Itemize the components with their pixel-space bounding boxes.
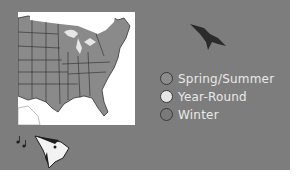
legend-label: Spring/Summer	[178, 72, 274, 86]
range-map-panel: Spring/Summer Year-Round Winter	[0, 0, 290, 170]
range-map	[18, 12, 135, 125]
legend-item-winter: Winter	[160, 106, 274, 123]
legend-label: Winter	[178, 108, 219, 122]
flying-bird-icon	[190, 20, 232, 56]
singing-bird-head-icon	[15, 130, 75, 172]
us-map-illustration	[18, 12, 135, 125]
music-notes-icon	[16, 136, 25, 148]
legend-item-spring-summer: Spring/Summer	[160, 70, 274, 87]
winter-swatch-icon	[160, 108, 173, 121]
legend: Spring/Summer Year-Round Winter	[160, 70, 274, 124]
year-round-swatch-icon	[160, 90, 173, 103]
legend-item-year-round: Year-Round	[160, 88, 274, 105]
spring-summer-swatch-icon	[160, 72, 173, 85]
legend-label: Year-Round	[178, 90, 247, 104]
